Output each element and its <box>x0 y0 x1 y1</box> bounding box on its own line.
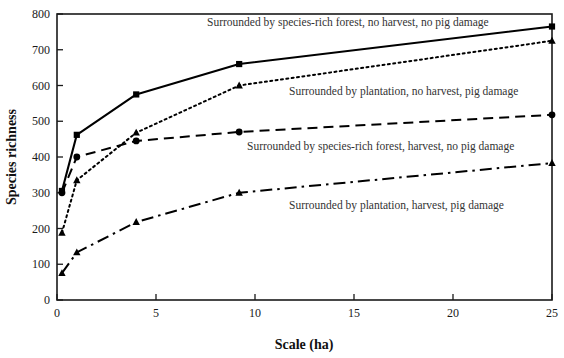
y-axis-ticks: 0100200300400500600700800 <box>32 7 63 307</box>
y-tick-label: 700 <box>32 43 50 57</box>
y-tick-label: 100 <box>32 257 50 271</box>
series-annotation-0: Surrounded by species-rich forest, no ha… <box>207 16 489 29</box>
series-3 <box>58 159 555 276</box>
data-point-square <box>236 61 242 67</box>
y-tick-label: 600 <box>32 79 50 93</box>
y-tick-label: 0 <box>44 293 50 307</box>
x-tick-label: 25 <box>546 306 558 320</box>
data-point-triangle <box>58 229 65 236</box>
x-tick-label: 10 <box>249 306 261 320</box>
series-annotations-layer: Surrounded by species-rich forest, no ha… <box>207 16 518 212</box>
series-2 <box>59 111 556 196</box>
figure-container: 0100200300400500600700800 0510152025 Sur… <box>0 0 564 358</box>
data-point-triangle <box>235 82 242 89</box>
y-tick-label: 300 <box>32 186 50 200</box>
y-axis-title: Species richness <box>4 108 19 205</box>
series-annotation-3: Surrounded by plantation, harvest, pig d… <box>289 199 504 212</box>
series-0 <box>59 23 555 194</box>
data-point-circle <box>73 154 80 161</box>
data-point-triangle <box>133 218 140 225</box>
x-tick-label: 5 <box>153 306 159 320</box>
data-point-circle <box>133 138 140 145</box>
data-point-square <box>549 23 555 29</box>
series-line <box>62 163 552 273</box>
series-line <box>62 115 552 193</box>
y-tick-label: 500 <box>32 114 50 128</box>
data-point-triangle <box>548 159 555 166</box>
series-annotation-2: Surrounded by species-rich forest, harve… <box>247 140 514 153</box>
series-annotation-1: Surrounded by plantation, no harvest, pi… <box>289 85 518 98</box>
data-point-square <box>74 132 80 138</box>
data-point-circle <box>59 189 66 196</box>
data-point-triangle <box>133 129 140 136</box>
data-point-square <box>133 91 139 97</box>
x-tick-label: 15 <box>348 306 360 320</box>
data-point-circle <box>236 129 243 136</box>
y-tick-label: 800 <box>32 7 50 21</box>
x-axis-title: Scale (ha) <box>275 337 334 353</box>
x-tick-label: 0 <box>54 306 60 320</box>
x-tick-label: 20 <box>447 306 459 320</box>
data-point-circle <box>549 111 556 118</box>
x-axis-ticks: 0510152025 <box>54 294 558 320</box>
data-point-triangle <box>73 176 80 183</box>
species-richness-line-chart: 0100200300400500600700800 0510152025 Sur… <box>0 0 564 358</box>
y-tick-label: 200 <box>32 222 50 236</box>
y-tick-label: 400 <box>32 150 50 164</box>
